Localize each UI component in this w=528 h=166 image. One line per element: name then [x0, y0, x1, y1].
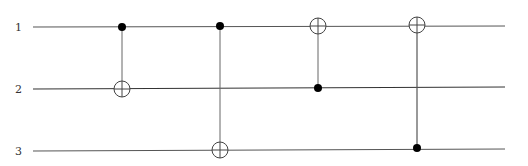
target-oplus-icon [310, 18, 326, 34]
control-dot-icon [216, 22, 224, 30]
control-dot-icon [314, 84, 322, 92]
cnot-gate-3 [310, 18, 326, 92]
qubit-wire-3: 3 [15, 145, 505, 158]
qubit-label-2: 2 [15, 83, 22, 96]
control-dot-icon [413, 144, 421, 152]
qubit-label-3: 3 [15, 145, 22, 158]
cnot-gate-1 [114, 23, 130, 97]
target-oplus-icon [212, 142, 228, 158]
target-oplus-icon [114, 81, 130, 97]
qubit-label-1: 1 [15, 21, 22, 34]
quantum-circuit: 1 2 3 [0, 0, 528, 166]
cnot-gate-4 [409, 17, 425, 152]
control-dot-icon [118, 23, 126, 31]
qubit-wire-1: 1 [15, 21, 505, 34]
qubit-wire-2: 2 [15, 83, 505, 96]
target-oplus-icon [409, 17, 425, 33]
cnot-gate-2 [212, 22, 228, 158]
